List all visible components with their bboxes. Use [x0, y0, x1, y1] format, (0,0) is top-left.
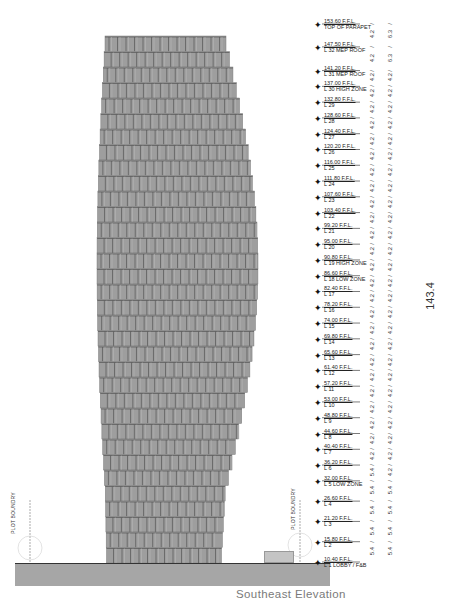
level-name: L 17 [324, 291, 352, 297]
level-target-icon: ✦ [314, 44, 322, 52]
level-target-icon: ✦ [314, 21, 322, 29]
level-marker: ✦132.80 F.F.L.L 29 [324, 96, 356, 108]
dimension-tick: / [369, 212, 375, 214]
level-target-icon: ✦ [314, 518, 322, 526]
level-elevation: 107.60 F.F.L. [324, 191, 356, 197]
dimension-tick: / [387, 212, 393, 214]
level-marker: ✦74.00 F.F.L.L 15 [324, 317, 352, 329]
level-name: L 21 [324, 228, 352, 234]
level-target-icon: ✦ [314, 257, 322, 265]
level-marker: ✦82.40 F.F.L.L 17 [324, 285, 352, 297]
dimension-label: 4.2 [369, 54, 375, 62]
level-name: L 19 HIGH ZONE [324, 260, 367, 266]
level-marker: ✦90.80 F.F.L.L 19 HIGH ZONE [324, 254, 367, 266]
dimension-label: 4.2 [387, 105, 393, 113]
dimension-label: 4.2 [369, 373, 375, 381]
level-name: TOP OF PARAPET [324, 24, 371, 30]
level-name: L 16 [324, 307, 352, 313]
level-target-icon: ✦ [314, 498, 322, 506]
level-name: L 1 LOBBY / F&B [324, 562, 367, 568]
dimension-tick: / [387, 433, 393, 435]
dimension-tick: / [387, 243, 393, 245]
level-target-icon: ✦ [314, 431, 322, 439]
level-name: L 8 [324, 434, 352, 440]
dimension-tick: / [387, 401, 393, 403]
level-target-icon: ✦ [314, 99, 322, 107]
dimension-tick: / [387, 196, 393, 198]
level-name: L 27 [324, 134, 356, 140]
level-target-icon: ✦ [314, 225, 322, 233]
dimension-label: 4.2 [387, 357, 393, 365]
level-marker: ✦57.20 F.F.L.L 11 [324, 380, 352, 392]
level-target-icon: ✦ [314, 415, 322, 423]
dimension-tick: / [369, 164, 375, 166]
level-elevation: 65.60 F.F.L. [324, 349, 352, 355]
dimension-tick: / [369, 70, 375, 72]
dimension-label: 4.2 [387, 247, 393, 255]
level-marker: ✦26.60 F.F.L.L 4 [324, 495, 352, 507]
dimension-label: 4.2 [387, 373, 393, 381]
dimension-tick: / [369, 354, 375, 356]
level-marker: ✦65.60 F.F.L.L 13 [324, 349, 352, 361]
dimension-tick: / [369, 196, 375, 198]
level-name: L 30 HIGH ZONE [324, 86, 367, 92]
dimension-label: 4.2 [387, 73, 393, 81]
dimension-label: 5.4 [369, 468, 375, 476]
dimension-label: 4.2 [369, 326, 375, 334]
annex-structure [264, 551, 294, 563]
level-marker: ✦48.80 F.F.L.L 9 [324, 412, 352, 424]
level-name: L 10 [324, 402, 352, 408]
level-target-icon: ✦ [314, 241, 322, 249]
dimension-label: 4.2 [369, 200, 375, 208]
dimension-label: 4.2 [369, 278, 375, 286]
level-name: L 14 [324, 339, 352, 345]
dimension-label: 4.2 [369, 184, 375, 192]
dimension-label: 4.2 [369, 105, 375, 113]
level-elevation: 48.80 F.F.L. [324, 412, 352, 418]
level-target-icon: ✦ [314, 446, 322, 454]
dimension-label: 4.2 [387, 152, 393, 160]
dimension-label: 4.2 [369, 436, 375, 444]
dimension-label: 4.2 [387, 278, 393, 286]
dimension-tick: / [369, 322, 375, 324]
dimension-label: 4.2 [369, 89, 375, 97]
dimension-tick: / [369, 401, 375, 403]
level-name: L 11 [324, 386, 352, 392]
level-name: L 18 LOW ZONE [324, 276, 365, 282]
dimension-label: 4.2 [369, 405, 375, 413]
dimension-tick: / [387, 322, 393, 324]
plot-boundary-label-left: PLOT BOUNDRY [10, 492, 16, 534]
dimension-label: 4.2 [369, 263, 375, 271]
dimension-label: 4.2 [369, 121, 375, 129]
dimension-label: 4.2 [369, 136, 375, 144]
dimension-label: 4.2 [369, 152, 375, 160]
level-marker: ✦103.40 F.F.L.L 22 [324, 207, 356, 219]
dimension-label: 4.2 [387, 420, 393, 428]
level-name: L 26 [324, 149, 356, 155]
dimension-label: 4.2 [387, 168, 393, 176]
level-marker: ✦32.00 F.F.L.L 5 LOW ZONE [324, 475, 362, 487]
level-marker: ✦21.20 F.F.L.L 3 [324, 515, 352, 527]
level-target-icon: ✦ [314, 399, 322, 407]
level-name: L 3 [324, 521, 352, 527]
level-marker: ✦147.50 F.F.L.L 32 MEP ROOF [324, 41, 365, 53]
dimension-tick: / [387, 417, 393, 419]
level-marker: ✦128.60 F.F.L.L 28 [324, 112, 356, 124]
level-marker: ✦124.40 F.F.L.L 27 [324, 128, 356, 140]
level-marker: ✦86.60 F.F.L.L 18 LOW ZONE [324, 270, 365, 282]
dimension-label: 5.4 [387, 547, 393, 555]
dimension-tick: / [387, 275, 393, 277]
level-marker: ✦111.80 F.F.L.L 24 [324, 175, 355, 187]
level-name: L 32 MEP ROOF [324, 47, 365, 53]
dimension-tick: / [369, 46, 375, 48]
dimension-tick: / [387, 354, 393, 356]
dimension-label: 4.2 [369, 215, 375, 223]
level-marker: ✦153.60 F.F.L.TOP OF PARAPET [324, 18, 371, 30]
level-marker: ✦61.40 F.F.L.L 12 [324, 364, 352, 376]
dimension-label: 6.3 [387, 54, 393, 62]
level-marker: ✦10.40 F.F.L.L 1 LOBBY / F&B [324, 556, 367, 568]
level-target-icon: ✦ [314, 178, 322, 186]
dimension-tick: / [387, 133, 393, 135]
dimension-label: 4.2 [387, 89, 393, 97]
dimension-label: 4.2 [369, 342, 375, 350]
